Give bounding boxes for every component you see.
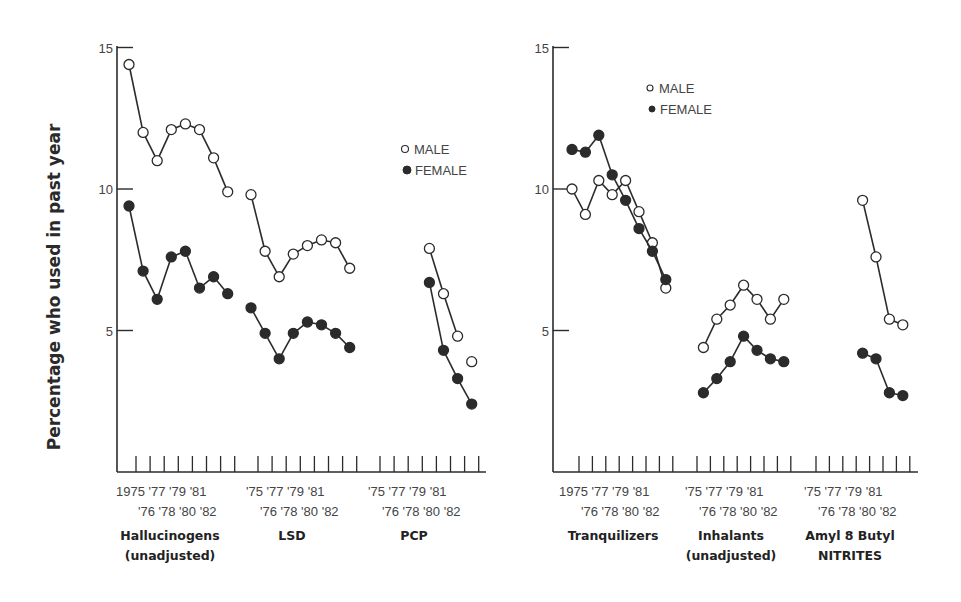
- x-tick-labels-top: '75 '77 '79 '81: [804, 484, 883, 499]
- male-point: [567, 184, 577, 194]
- female-point: [439, 345, 449, 355]
- female-point: [302, 317, 312, 327]
- male-point: [712, 314, 722, 324]
- legend: MALEFEMALE: [647, 81, 712, 117]
- male-point: [594, 176, 604, 186]
- male-point: [580, 209, 590, 219]
- female-point: [661, 275, 671, 285]
- legend: MALEFEMALE: [402, 142, 468, 178]
- male-point: [166, 125, 176, 135]
- male-point: [331, 238, 341, 248]
- group-amyl-8-butyl-nitrites: '75 '77 '79 '81'76 '78 '80 '82Amyl 8 But…: [804, 195, 910, 563]
- female-legend-marker: [649, 106, 655, 112]
- category-label: PCP: [400, 528, 428, 543]
- x-tick-labels-bottom: '76 '78 '80 '82: [581, 504, 660, 519]
- male-line: [251, 195, 265, 252]
- male-line: [876, 257, 889, 319]
- y-tick-label: 10: [535, 182, 549, 197]
- female-point: [698, 388, 708, 398]
- x-tick-labels-top: 1975 '77 '79 '81: [116, 484, 207, 499]
- female-point: [580, 147, 590, 157]
- y-tick-label: 5: [106, 324, 113, 339]
- female-point: [180, 246, 190, 256]
- male-point: [439, 289, 449, 299]
- group-inhalants-unadjusted-: '75 '77 '79 '81'76 '78 '80 '82Inhalants(…: [685, 280, 791, 563]
- male-line: [129, 64, 143, 132]
- male-point: [884, 314, 894, 324]
- female-point: [166, 252, 176, 262]
- group-hallucinogens-unadjusted-: 1975 '77 '79 '81'76 '78 '80 '82Hallucino…: [116, 59, 235, 563]
- male-legend-marker: [402, 146, 409, 153]
- male-point: [274, 272, 284, 282]
- male-legend-marker: [647, 85, 653, 91]
- female-point: [331, 328, 341, 338]
- category-label: (unadjusted): [686, 548, 777, 563]
- female-point: [246, 303, 256, 313]
- category-label: Inhalants: [698, 528, 764, 543]
- male-point: [858, 195, 868, 205]
- x-tick-labels-bottom: '76 '78 '80 '82: [699, 504, 778, 519]
- x-tick-labels-top: '75 '77 '79 '81: [246, 484, 325, 499]
- male-point: [607, 190, 617, 200]
- male-point: [424, 243, 434, 253]
- female-point: [209, 272, 219, 282]
- category-label: Amyl 8 Butyl: [805, 528, 894, 543]
- category-label: LSD: [278, 528, 305, 543]
- female-point: [138, 266, 148, 276]
- x-tick-labels-bottom: '76 '78 '80 '82: [382, 504, 461, 519]
- female-point: [274, 354, 284, 364]
- female-point: [288, 328, 298, 338]
- category-label: (unadjusted): [125, 548, 216, 563]
- x-tick-labels-bottom: '76 '78 '80 '82: [818, 504, 897, 519]
- female-legend-label: FEMALE: [415, 163, 467, 178]
- category-label: Hallucinogens: [120, 528, 219, 543]
- category-label: Tranquilizers: [568, 528, 659, 543]
- female-point: [725, 357, 735, 367]
- female-point: [317, 320, 327, 330]
- male-line: [444, 294, 458, 336]
- male-point: [138, 127, 148, 137]
- female-point: [765, 354, 775, 364]
- male-point: [260, 246, 270, 256]
- female-line: [599, 135, 612, 175]
- male-point: [288, 249, 298, 259]
- male-point: [765, 314, 775, 324]
- female-point: [467, 399, 477, 409]
- male-point: [345, 263, 355, 273]
- female-point: [424, 277, 434, 287]
- male-point: [223, 187, 233, 197]
- male-point: [302, 241, 312, 251]
- female-point: [607, 170, 617, 180]
- male-point: [246, 190, 256, 200]
- x-tick-labels-bottom: '76 '78 '80 '82: [138, 504, 217, 519]
- female-line: [129, 206, 143, 271]
- male-point: [180, 119, 190, 129]
- y-axis-label: Percentage who used in past year: [44, 123, 64, 450]
- female-point: [634, 224, 644, 234]
- female-point: [260, 328, 270, 338]
- female-point: [712, 374, 722, 384]
- male-point: [453, 331, 463, 341]
- male-point: [739, 280, 749, 290]
- category-label: NITRITES: [818, 548, 882, 563]
- female-point: [345, 342, 355, 352]
- group-pcp: '75 '77 '79 '81'76 '78 '80 '82PCP: [368, 243, 479, 543]
- male-line: [863, 200, 876, 257]
- x-tick-labels-top: '75 '77 '79 '81: [685, 484, 764, 499]
- female-line: [185, 251, 199, 288]
- female-point: [594, 130, 604, 140]
- male-point: [898, 320, 908, 330]
- male-legend-label: MALE: [414, 142, 450, 157]
- female-point: [567, 144, 577, 154]
- y-tick-label: 10: [99, 182, 113, 197]
- female-point: [453, 374, 463, 384]
- group-tranquilizers: 1975 '77 '79 '81'76 '78 '80 '82Tranquili…: [559, 130, 673, 543]
- x-tick-labels-top: '75 '77 '79 '81: [368, 484, 447, 499]
- y-tick-label: 15: [99, 41, 113, 56]
- male-point: [124, 59, 134, 69]
- male-legend-label: MALE: [659, 81, 695, 96]
- male-point: [195, 125, 205, 135]
- male-point: [634, 207, 644, 217]
- female-point: [647, 246, 657, 256]
- chart-panel-1: 151051975 '77 '79 '81'76 '78 '80 '82Hall…: [99, 41, 486, 564]
